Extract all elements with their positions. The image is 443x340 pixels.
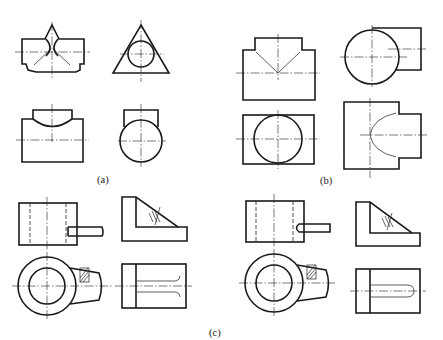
- c-left-front-view: [19, 197, 103, 250]
- b-side-view: [340, 25, 428, 87]
- c-right-front-view: [246, 194, 330, 248]
- group-c-right: [239, 194, 426, 317]
- group-b: (b): [236, 25, 428, 187]
- c-right-slot-view: [350, 269, 426, 313]
- a-side-view: [113, 20, 169, 82]
- a-side-view-2: [118, 104, 166, 167]
- c-right-ring-view: [239, 249, 337, 317]
- a-top-view: [16, 104, 89, 162]
- a-front-view: [15, 22, 90, 80]
- group-c-left: (c): [12, 197, 221, 339]
- group-a: (a): [15, 20, 169, 186]
- caption-c: (c): [209, 327, 221, 339]
- b-top-view: [236, 110, 320, 169]
- c-left-ring-view: [12, 252, 112, 320]
- c-right-l-bracket: [356, 202, 420, 246]
- caption-b: (b): [320, 175, 333, 187]
- b-front-view: [236, 34, 320, 100]
- c-left-l-bracket: [122, 197, 187, 241]
- technical-drawing: (a): [0, 0, 443, 340]
- b-side-view-2: [344, 98, 428, 178]
- caption-a: (a): [97, 174, 109, 186]
- c-left-slot-view: [115, 264, 192, 308]
